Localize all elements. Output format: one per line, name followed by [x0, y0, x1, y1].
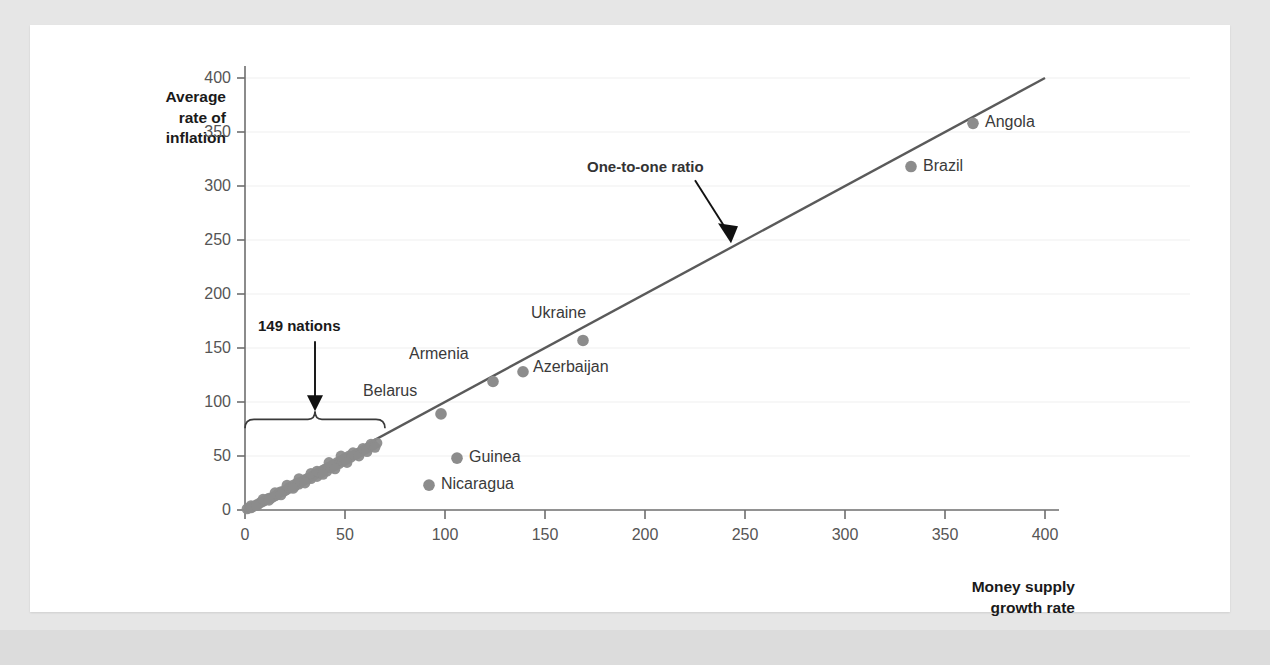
data-point-labeled	[435, 408, 447, 420]
data-point-labeled	[967, 118, 979, 130]
y-tick-label: 350	[187, 123, 231, 141]
x-tick-label: 50	[336, 526, 354, 544]
nations-arrow-head	[307, 395, 323, 411]
x-tick-label: 150	[532, 526, 559, 544]
y-tick-label: 300	[187, 177, 231, 195]
data-point	[330, 464, 341, 475]
y-tick-label: 50	[187, 447, 231, 465]
x-axis-title: Money supply growth rate	[935, 577, 1075, 618]
data-point	[318, 469, 329, 480]
data-point	[370, 442, 381, 453]
point-label-azerbaijan: Azerbaijan	[533, 358, 609, 376]
x-tick-label: 100	[432, 526, 459, 544]
nations-bracket	[245, 411, 385, 428]
chart-card: Average rate of inflation Money supply g…	[30, 25, 1230, 612]
x-tick-label: 350	[932, 526, 959, 544]
y-tick-label: 200	[187, 285, 231, 303]
y-tick-label: 400	[187, 69, 231, 87]
data-point	[276, 489, 287, 500]
point-label-brazil: Brazil	[923, 157, 963, 175]
data-point	[342, 457, 353, 468]
figure-root: Average rate of inflation Money supply g…	[0, 0, 1270, 665]
y-tick-label: 250	[187, 231, 231, 249]
y-tick-label: 100	[187, 393, 231, 411]
data-point-labeled	[905, 161, 917, 173]
data-point-labeled	[451, 452, 463, 464]
data-point-labeled	[517, 366, 529, 378]
annotation-one-to-one-ratio: One-to-one ratio	[587, 158, 704, 175]
point-label-angola: Angola	[985, 113, 1035, 131]
point-label-armenia: Armenia	[409, 345, 469, 363]
y-tick-label: 150	[187, 339, 231, 357]
data-point	[300, 478, 311, 489]
data-point-labeled	[577, 335, 589, 347]
bottom-strip	[0, 630, 1270, 665]
point-label-ukraine: Ukraine	[531, 304, 586, 322]
x-tick-label: 200	[632, 526, 659, 544]
point-label-nicaragua: Nicaragua	[441, 475, 514, 493]
annotation-149-nations: 149 nations	[258, 317, 341, 334]
x-tick-label: 300	[832, 526, 859, 544]
data-point-labeled	[487, 376, 499, 388]
x-tick-label: 250	[732, 526, 759, 544]
point-label-guinea: Guinea	[469, 448, 521, 466]
x-tick-label: 0	[241, 526, 250, 544]
x-tick-label: 400	[1032, 526, 1059, 544]
point-label-belarus: Belarus	[363, 382, 417, 400]
data-point	[288, 483, 299, 494]
y-tick-label: 0	[187, 501, 231, 519]
data-point-labeled	[423, 479, 435, 491]
